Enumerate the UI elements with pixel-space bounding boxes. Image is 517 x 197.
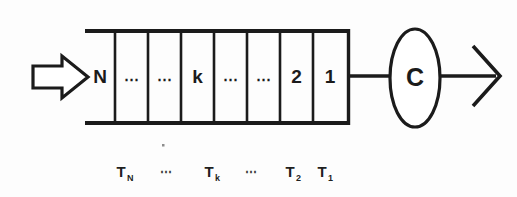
service-time-label: T 1 <box>317 163 333 183</box>
queue-cell-label: ⋯ <box>256 70 272 87</box>
service-time-label: T 2 <box>285 163 301 183</box>
service-time-base: T <box>285 163 294 180</box>
service-node-label: C <box>406 63 424 91</box>
scan-artifact-dot <box>162 144 165 147</box>
service-node: C <box>390 29 440 127</box>
service-time-subscript: 1 <box>328 173 333 183</box>
arrival-arrow <box>33 56 88 98</box>
service-time-label: T k <box>204 163 221 183</box>
service-time-base: T <box>116 163 125 180</box>
queue-cell-dividers <box>115 33 313 121</box>
waiting-line: N ⋯ ⋯ k ⋯ ⋯ 2 1 <box>85 29 350 125</box>
departure-arrow <box>440 46 500 106</box>
queue-cell-label: ⋯ <box>157 70 173 87</box>
queue-diagram-canvas: N ⋯ ⋯ k ⋯ ⋯ 2 1 C T N ⋯ <box>0 0 517 197</box>
service-time-base: T <box>204 163 213 180</box>
service-time-subscript: N <box>127 173 134 183</box>
queue-cell-label: k <box>192 66 203 87</box>
queue-cell-label: 2 <box>291 66 302 87</box>
queueing-system-diagram: N ⋯ ⋯ k ⋯ ⋯ 2 1 C T N ⋯ <box>0 0 517 197</box>
service-time-base: T <box>317 163 326 180</box>
service-time-ellipsis: ⋯ <box>245 165 257 179</box>
service-time-label: T N <box>116 163 133 183</box>
service-time-subscript: k <box>215 173 221 183</box>
service-time-ellipsis: ⋯ <box>160 165 172 179</box>
queue-cell-label: 1 <box>325 66 336 87</box>
queue-cell-label: N <box>93 66 107 87</box>
service-time-subscript: 2 <box>296 173 301 183</box>
queue-cell-label: ⋯ <box>223 70 239 87</box>
queue-cell-label: ⋯ <box>124 70 140 87</box>
service-time-label-row: T N ⋯ T k ⋯ T 2 T 1 <box>116 163 333 183</box>
